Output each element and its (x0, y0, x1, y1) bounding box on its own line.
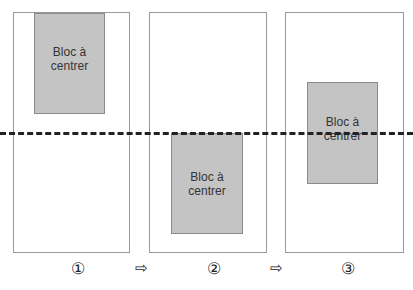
block-to-center: Bloc à centrer (34, 13, 105, 114)
block-to-center: Bloc à centrer (171, 133, 243, 234)
step-number-3: ③ (333, 259, 363, 278)
block-label: Bloc à centrer (51, 45, 88, 73)
arrow-icon: ⇨ (131, 259, 151, 277)
step-number-2: ② (199, 259, 229, 278)
center-guide-line (0, 132, 413, 135)
block-label: Bloc à centrer (188, 170, 225, 198)
block-label: Bloc à centrer (324, 115, 361, 143)
arrow-icon: ⇨ (266, 259, 286, 277)
step-number-1: ① (63, 259, 93, 278)
